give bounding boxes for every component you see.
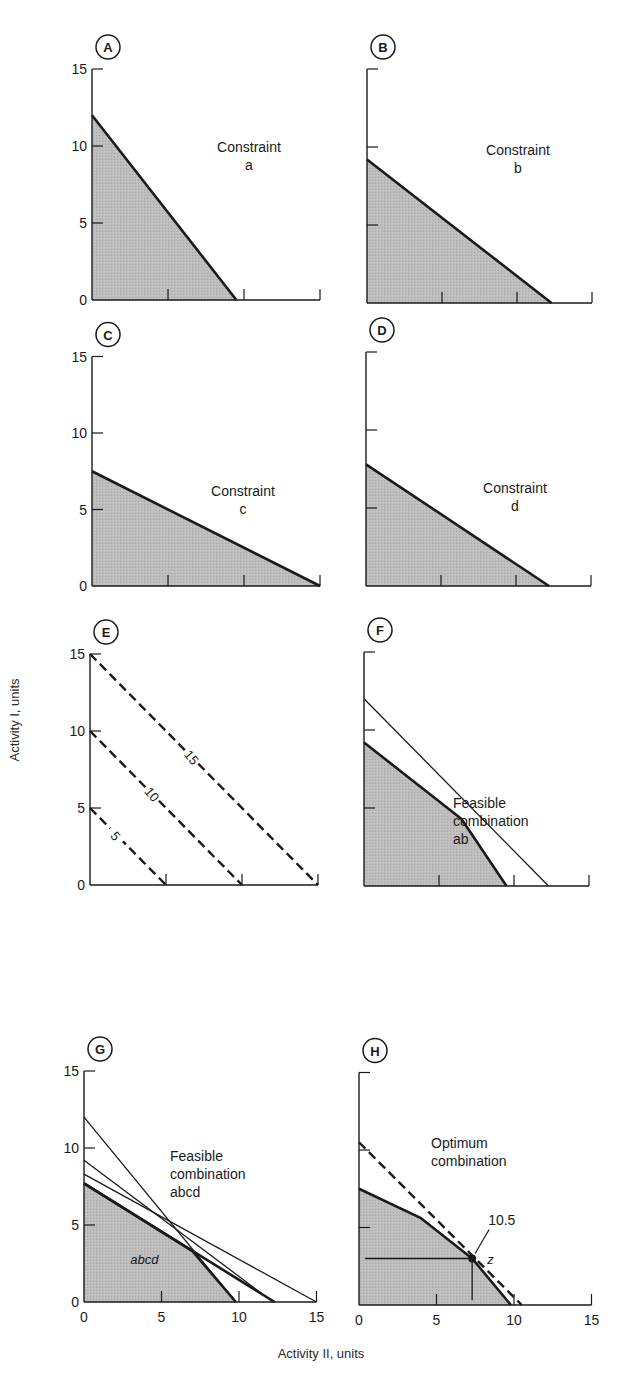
x-tick-label: 0	[355, 1312, 363, 1328]
y-tick-label: 15	[71, 349, 87, 365]
panel-d: DConstraintd	[366, 318, 591, 586]
line-5	[90, 808, 166, 885]
panel-c: 051015CConstraintc	[71, 323, 320, 595]
panel-caption: Feasible	[453, 795, 506, 811]
panel-f: FFeasiblecombinationab	[364, 618, 589, 886]
panel-caption: combination	[453, 813, 529, 829]
x-tick-label: 5	[433, 1312, 441, 1328]
panel-letter: F	[376, 623, 384, 638]
optimum-point-label: z	[486, 1252, 494, 1267]
panel-e: 05101551015E	[69, 620, 318, 893]
y-tick-label: 15	[71, 61, 87, 77]
x-tick-label: 0	[80, 1309, 88, 1325]
y-tick-label: 0	[79, 578, 87, 594]
x-tick-label: 5	[158, 1309, 166, 1325]
panel-letter: B	[378, 40, 387, 55]
panel-caption: Constraint	[217, 139, 281, 155]
x-tick-label: 10	[231, 1309, 247, 1325]
feasible-region	[359, 1189, 511, 1305]
optimum-point	[468, 1255, 476, 1263]
y-tick-label: 15	[69, 646, 85, 662]
y-tick-label: 0	[77, 877, 85, 893]
y-tick-label: 10	[71, 425, 87, 441]
value-leader-line	[475, 1230, 489, 1254]
y-tick-label: 0	[79, 292, 87, 308]
panel-g: 051015051015GFeasiblecombinationabcdabcd	[63, 1037, 324, 1325]
x-tick-label: 10	[506, 1312, 522, 1328]
y-tick-label: 10	[63, 1140, 79, 1156]
panel-caption: b	[514, 160, 522, 176]
y-tick-label: 15	[63, 1063, 79, 1079]
panel-letter: H	[370, 1044, 379, 1059]
panel-a: 051015AConstrainta	[71, 35, 320, 308]
panel-letter: E	[102, 625, 111, 640]
panel-letter: G	[95, 1042, 105, 1057]
panel-caption: Constraint	[486, 142, 550, 158]
panel-caption: combination	[431, 1153, 507, 1169]
panel-caption: Constraint	[483, 480, 547, 496]
panel-b: BConstraintb	[367, 35, 592, 303]
panel-caption: Feasible	[170, 1148, 223, 1164]
panel-caption: a	[245, 157, 253, 173]
y-tick-label: 5	[79, 502, 87, 518]
line-15	[90, 654, 318, 885]
panel-letter: D	[377, 323, 386, 338]
panel-letter: C	[103, 328, 113, 343]
line-10	[90, 731, 242, 885]
panel-caption: c	[240, 501, 247, 517]
panel-caption: abcd	[170, 1184, 200, 1200]
feasible-region	[84, 1183, 236, 1302]
y-tick-label: 10	[71, 138, 87, 154]
panel-caption: combination	[170, 1166, 246, 1182]
region-label: abcd	[130, 1252, 159, 1267]
x-axis-label: Activity II, units	[0, 1346, 622, 1361]
panel-caption: Optimum	[431, 1135, 488, 1151]
y-tick-label: 10	[69, 723, 85, 739]
panel-caption: d	[511, 498, 519, 514]
panel-h: 051015HOptimumcombination10.5z	[355, 1039, 599, 1329]
optimum-value-label: 10.5	[488, 1212, 515, 1228]
panel-caption: Constraint	[211, 483, 275, 499]
x-tick-label: 15	[309, 1309, 325, 1325]
panel-caption: ab	[453, 831, 469, 847]
y-tick-label: 5	[71, 1217, 79, 1233]
y-axis-label: Activity I, units	[7, 678, 22, 761]
figure: 051015AConstraintaBConstraintb051015CCon…	[0, 0, 622, 1376]
y-tick-label: 5	[77, 800, 85, 816]
panel-letter: A	[103, 40, 113, 55]
y-tick-label: 5	[79, 215, 87, 231]
y-tick-label: 0	[71, 1294, 79, 1310]
x-tick-label: 15	[584, 1312, 600, 1328]
plot-canvas: 051015AConstraintaBConstraintb051015CCon…	[0, 0, 622, 1376]
